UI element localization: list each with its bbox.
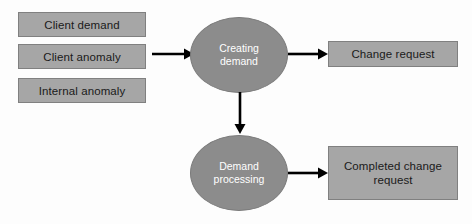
node-demand-processing-line1: Demand: [219, 160, 259, 173]
node-demand-processing[interactable]: Demand processing: [190, 135, 288, 211]
node-change-request[interactable]: Change request: [328, 41, 458, 67]
connector-demand-processing-to-completed-change-request: [288, 164, 330, 182]
node-creating-demand-line1: Creating: [219, 42, 259, 55]
node-client-anomaly[interactable]: Client anomaly: [18, 44, 146, 69]
node-creating-demand[interactable]: Creating demand: [190, 17, 288, 93]
node-client-demand[interactable]: Client demand: [18, 12, 146, 37]
node-internal-anomaly[interactable]: Internal anomaly: [18, 78, 146, 103]
node-completed-change-request-line2: request: [373, 173, 412, 187]
flowchart-diagram: Client demand Client anomaly Internal an…: [0, 0, 472, 224]
node-change-request-label: Change request: [351, 47, 434, 61]
node-client-anomaly-label: Client anomaly: [43, 50, 120, 64]
node-creating-demand-line2: demand: [220, 55, 258, 68]
node-completed-change-request-line1: Completed change: [344, 159, 442, 173]
node-demand-processing-line2: processing: [214, 173, 265, 186]
node-internal-anomaly-label: Internal anomaly: [39, 84, 126, 98]
node-completed-change-request[interactable]: Completed change request: [328, 146, 458, 200]
connector-creating-demand-to-change-request: [288, 45, 330, 63]
connector-creating-demand-to-demand-processing: [231, 92, 249, 136]
node-client-demand-label: Client demand: [44, 18, 119, 32]
